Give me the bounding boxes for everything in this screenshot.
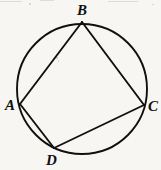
vertex-label-b: B [77,3,87,18]
vertex-label-a: A [5,98,15,113]
vertex-label-d: D [46,153,57,168]
geometry-canvas [0,0,161,170]
chord-DA [20,104,54,148]
chord-BC [82,22,144,105]
chord-CD [54,105,144,148]
geometry-figure: A B C D [0,0,161,170]
chord-AB [20,22,82,104]
vertex-label-c: C [148,99,158,114]
